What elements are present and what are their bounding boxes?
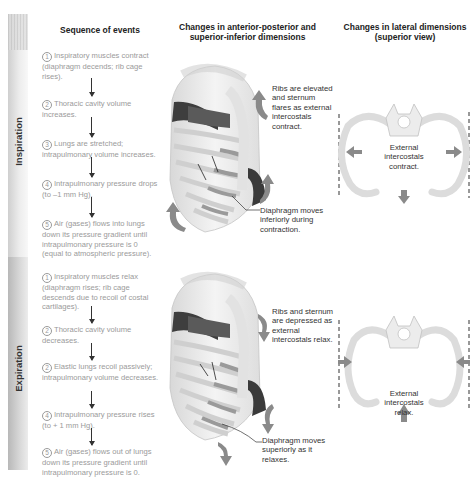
step-number: 2 — [42, 326, 52, 336]
ap-si-title-line2: superior-inferior dimensions — [170, 32, 325, 42]
inspiration-step-3: 3Lungs are stretched; intrapulmonary vol… — [42, 139, 160, 160]
inspiration-step-4: 4Intrapulmonary pressure drops (to –1 mm… — [42, 179, 160, 200]
ap-si-title-line1: Changes in anterior-posterior and — [170, 22, 325, 32]
down-arrow-icon — [91, 391, 92, 408]
down-arrow-icon — [91, 343, 92, 360]
expiration-step-4: 4Intrapulmonary pressure rises (to + 1 m… — [42, 410, 160, 431]
step-text: Thoracic cavity volume increases. — [42, 99, 131, 119]
expiration-step-2: 2Thoracic cavity volume decreases. — [42, 325, 160, 346]
step-number: 4 — [42, 411, 52, 421]
step-text: Lungs are stretched; intrapulmonary volu… — [42, 139, 156, 159]
lateral-expiration-note: External intercostals relax. — [375, 389, 433, 417]
step-number: 4 — [42, 180, 52, 190]
inspiration-step-1: 1Inspiratory muscles contract (diaphragm… — [42, 51, 160, 81]
inspiration-diaphragm-note: Diaphragm moves inferiorly during contra… — [260, 206, 330, 234]
expiration-label: Expiration — [13, 343, 24, 395]
step-text: Inspiratory muscles relax (diaphragm ris… — [42, 272, 148, 311]
lateral-title-line1: Changes in lateral dimensions — [335, 22, 475, 32]
step-number: 2 — [42, 363, 52, 373]
step-text: Thoracic cavity volume decreases. — [42, 325, 131, 345]
lateral-inspiration-note: External intercostals contract. — [375, 143, 433, 171]
down-arrow-icon — [91, 306, 92, 323]
curved-up-arrow-icon — [164, 200, 186, 234]
expiration-step-5: 5Air (gases) flows out of lungs down its… — [42, 447, 160, 477]
expiration-step-3: 2Elastic lungs recoil passively; intrapu… — [42, 362, 160, 383]
expiration-ribcage-note: Ribs and sternum are depressed as extern… — [272, 307, 334, 345]
down-arrow-icon — [91, 78, 92, 96]
step-number: 2 — [42, 100, 52, 110]
down-arrow-icon — [91, 428, 92, 445]
ap-si-title: Changes in anterior-posterior and superi… — [170, 22, 325, 42]
expiration-diaphragm-note: Diaphragm moves superiorly as it relaxes… — [262, 436, 326, 464]
expiration-step-1: 1Inspiratory muscles relax (diaphragm ri… — [42, 272, 160, 312]
step-text: Intrapulmonary pressure drops (to –1 mm … — [42, 179, 157, 199]
curved-down-arrow-icon — [256, 312, 272, 344]
step-text: Air (gases) flows into lungs down its pr… — [42, 219, 151, 258]
down-arrow-icon — [398, 190, 410, 204]
lateral-title: Changes in lateral dimensions (superior … — [335, 22, 475, 42]
left-arrow-icon — [346, 146, 362, 158]
down-arrow-icon — [91, 157, 92, 177]
leader-line — [232, 196, 262, 226]
inspiration-label: Inspiration — [13, 116, 24, 168]
inspiration-step-5: 5Air (gases) flows into lungs down its p… — [42, 219, 160, 259]
step-number: 3 — [42, 140, 52, 150]
inspiration-step-2: 2Thoracic cavity volume increases. — [42, 99, 160, 120]
step-number: 1 — [42, 273, 52, 283]
step-text: Inspiratory muscles contract (diaphragm … — [42, 51, 149, 81]
ribcage-expiration-illustration — [160, 268, 270, 448]
step-text: Intrapulmonary pressure rises (to + 1 mm… — [42, 410, 154, 430]
down-arrow-icon — [91, 117, 92, 137]
sequence-title: Sequence of events — [40, 25, 160, 35]
inspiration-ribcage-note: Ribs are elevated and sternum flares as … — [272, 84, 334, 131]
curved-up-arrow-icon — [250, 88, 270, 122]
lateral-title-line2: (superior view) — [335, 32, 475, 42]
right-arrow-icon — [446, 146, 462, 158]
step-text: Elastic lungs recoil passively; intrapul… — [42, 362, 158, 382]
step-number: 5 — [42, 220, 52, 230]
step-number: 1 — [42, 52, 52, 62]
step-number: 5 — [42, 448, 52, 458]
down-arrow-icon — [91, 197, 92, 217]
band-texture — [8, 14, 28, 50]
step-text: Air (gases) flows out of lungs down its … — [42, 447, 152, 477]
curved-down-arrow-icon — [216, 440, 236, 468]
